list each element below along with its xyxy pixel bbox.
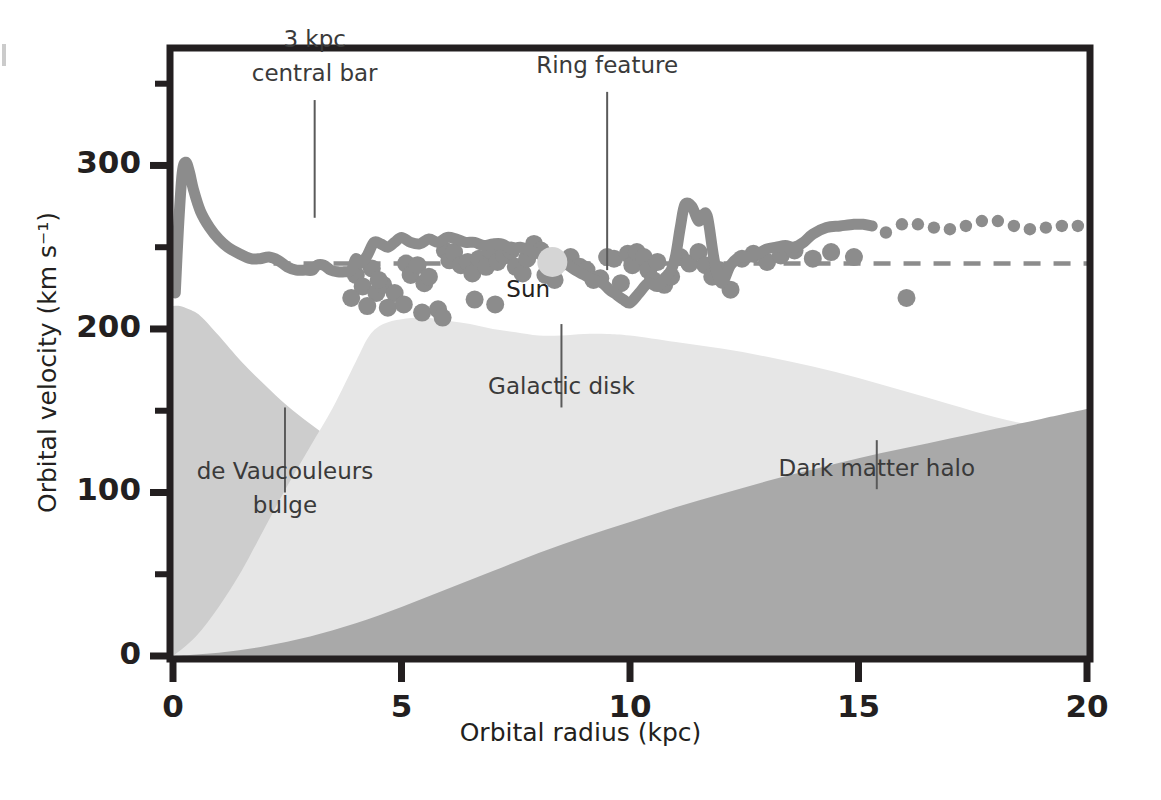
- annotation-line: Ring feature: [397, 48, 817, 82]
- scatter-point: [370, 271, 388, 289]
- scatter-point: [342, 289, 360, 307]
- scatter-point: [466, 291, 484, 309]
- annotation-dark-matter-halo: Dark matter halo: [667, 451, 1087, 485]
- y-tick-label-300: 300: [23, 144, 141, 180]
- extrapolation-dot: [944, 223, 956, 235]
- annotation-line: Dark matter halo: [667, 451, 1087, 485]
- x-tick-label-20: 20: [1027, 688, 1147, 724]
- y-tick-label-0: 0: [23, 635, 141, 671]
- annotation-line: bulge: [75, 488, 495, 522]
- extrapolation-dot: [896, 218, 908, 230]
- annotation-line: Galactic disk: [351, 369, 771, 403]
- x-tick-label-0: 0: [113, 688, 233, 724]
- extrapolation-dot: [912, 218, 924, 230]
- x-tick-label-5: 5: [342, 688, 462, 724]
- x-tick-label-10: 10: [570, 688, 690, 724]
- extrapolation-dot: [1024, 223, 1036, 235]
- x-tick-label-15: 15: [799, 688, 919, 724]
- extrapolation-dot: [1008, 220, 1020, 232]
- scatter-point: [845, 248, 863, 266]
- page-edge-artifact: [2, 44, 6, 66]
- extrapolation-dot: [1056, 220, 1068, 232]
- extrapolation-dot: [976, 215, 988, 227]
- y-tick-label-200: 200: [23, 308, 141, 344]
- annotation-line: de Vaucouleurs: [75, 454, 495, 488]
- extrapolation-dot: [880, 226, 892, 238]
- sun-marker: [537, 247, 567, 277]
- sun-label: Sun: [506, 276, 550, 302]
- scatter-point: [486, 295, 504, 313]
- scatter-point: [379, 299, 397, 317]
- annotation-de-vaucouleurs-bulge: de Vaucouleursbulge: [75, 454, 495, 522]
- extrapolation-dot: [992, 215, 1004, 227]
- annotation-ring-feature: Ring feature: [397, 48, 817, 82]
- extrapolation-dot: [1072, 220, 1084, 232]
- annotation-galactic-disk: Galactic disk: [351, 369, 771, 403]
- extrapolation-dot: [1040, 221, 1052, 233]
- scatter-point: [804, 250, 822, 268]
- scatter-point: [413, 304, 431, 322]
- scatter-point: [420, 268, 438, 286]
- scatter-point: [395, 295, 413, 313]
- extrapolation-dot: [928, 221, 940, 233]
- scatter-point: [648, 253, 666, 271]
- scatter-point: [434, 309, 452, 327]
- scatter-point: [897, 289, 915, 307]
- scatter-point: [358, 297, 376, 315]
- extrapolation-dot: [960, 220, 972, 232]
- scatter-point: [822, 243, 840, 261]
